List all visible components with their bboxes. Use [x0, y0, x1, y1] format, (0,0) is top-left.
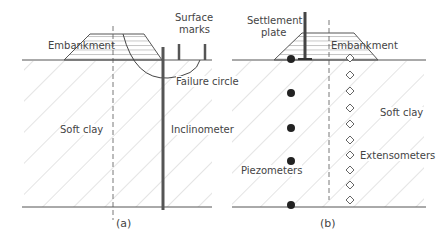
piezometer-2 — [287, 89, 295, 97]
label-soft-clay-b: Soft clay — [380, 107, 423, 118]
label-surface-marks-2: marks — [179, 24, 210, 35]
label-embankment-a: Embankment — [48, 40, 115, 51]
piezometer-1 — [287, 55, 295, 63]
diagram-canvas — [0, 0, 448, 240]
label-piezometers: Piezometers — [241, 165, 302, 176]
label-settlement-plate-1: Settlement — [247, 15, 302, 26]
label-embankment-b: Embankment — [331, 40, 398, 51]
piezometer-4 — [287, 157, 295, 165]
soft-clay-hatch-b — [232, 61, 424, 207]
piezometer-3 — [287, 124, 295, 132]
label-failure-circle: Failure circle — [176, 76, 239, 87]
label-extensometers: Extensometers — [360, 150, 435, 161]
label-inclinometer: Inclinometer — [171, 124, 234, 135]
caption-a: (a) — [116, 217, 131, 230]
panel-a — [22, 26, 212, 220]
piezometer-5 — [287, 201, 295, 209]
caption-b: (b) — [320, 217, 336, 230]
label-surface-marks-1: Surface — [175, 12, 213, 23]
label-soft-clay-a: Soft clay — [60, 124, 103, 135]
label-settlement-plate-2: plate — [261, 27, 286, 38]
